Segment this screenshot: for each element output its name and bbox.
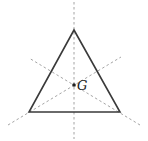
equilateral-triangle [29,30,120,112]
median-line-from-bottom-left [8,57,121,125]
centroid-diagram: G [0,0,148,141]
centroid-point [72,83,76,87]
centroid-label: G [77,78,87,93]
